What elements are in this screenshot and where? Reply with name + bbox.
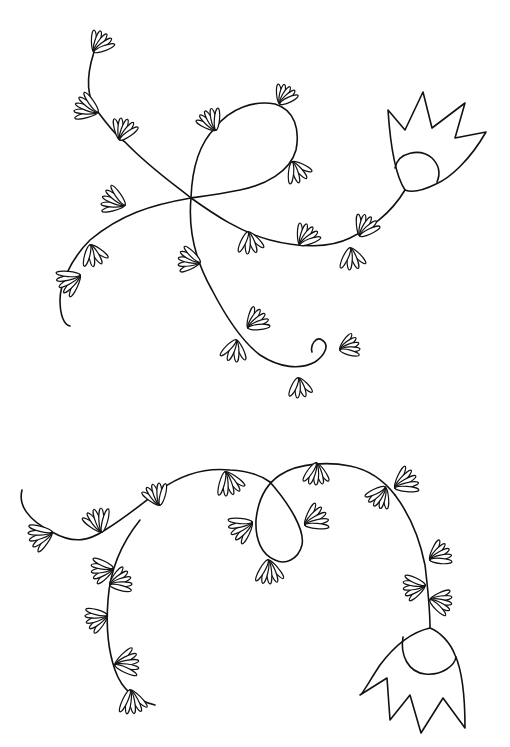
leaf-cluster xyxy=(97,182,132,221)
leaf xyxy=(56,270,80,277)
leaf-clusters-lower xyxy=(24,462,456,717)
leaf-cluster xyxy=(361,478,398,513)
leaf-cluster xyxy=(278,153,315,188)
leaf-cluster xyxy=(267,80,301,112)
flower-center xyxy=(395,153,439,182)
stem-down xyxy=(190,198,326,367)
leaf-cluster xyxy=(70,89,105,128)
leaf xyxy=(430,557,452,564)
leaf-cluster xyxy=(237,303,274,341)
leaf-cluster xyxy=(233,228,266,256)
stem-lower-right xyxy=(395,495,430,628)
leaf-cluster xyxy=(401,570,429,603)
leaf-cluster xyxy=(76,239,112,271)
stem-left-lower xyxy=(60,198,191,326)
leaf-cluster xyxy=(284,374,315,400)
leaf xyxy=(228,517,252,524)
flower-hanging xyxy=(360,628,465,733)
leaf-cluster xyxy=(335,244,368,272)
leaf-clusters-upper xyxy=(51,26,384,401)
leaf-cluster xyxy=(111,645,142,681)
vine-drawing xyxy=(0,0,510,747)
stem-top-left xyxy=(89,52,191,198)
leaf-cluster xyxy=(81,26,119,62)
upper-vine xyxy=(51,26,486,401)
lower-vine xyxy=(21,462,465,733)
leaf-cluster xyxy=(81,601,113,637)
stem-lower-left-arc xyxy=(107,520,155,705)
leaf-cluster xyxy=(114,686,150,717)
leaf-cluster xyxy=(218,336,251,364)
leaf-cluster xyxy=(176,244,204,277)
leaf-cluster xyxy=(24,517,59,556)
leaf xyxy=(213,108,220,130)
leaf xyxy=(395,485,419,492)
leaf-cluster xyxy=(421,536,456,573)
flower-upright xyxy=(388,92,486,191)
flower-petals xyxy=(388,92,486,191)
leaf-cluster xyxy=(334,330,363,363)
leaf-cluster xyxy=(346,210,383,245)
leaf-cluster xyxy=(386,462,424,502)
leaf-cluster xyxy=(287,219,325,255)
flower-petals-hanging xyxy=(360,628,465,733)
leaf xyxy=(305,522,329,529)
